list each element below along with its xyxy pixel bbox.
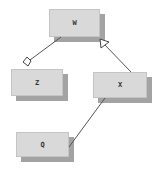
hollow-triangle-arrow-icon [100, 39, 109, 48]
edges-layer [0, 0, 159, 176]
edge-q-x-association[interactable] [69, 98, 105, 147]
hollow-diamond-icon [23, 57, 31, 66]
edge-z-w-aggregation[interactable] [23, 37, 61, 66]
edge-x-w-generalization[interactable] [100, 39, 131, 72]
